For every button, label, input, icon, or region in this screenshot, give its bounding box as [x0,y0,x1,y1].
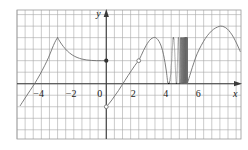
x-axis-label: x [233,89,237,99]
open-point-2-1 [137,59,141,63]
graph-figure: −4−20246xy [0,0,248,150]
x-tick-label: 2 [131,89,136,99]
x-tick-label: −4 [33,89,44,99]
x-tick-label: 6 [196,89,201,99]
x-tick-label: 0 [97,89,102,99]
filled-point-0-1 [104,59,108,63]
x-tick-label: −2 [66,89,77,99]
open-point-0-neg1 [104,105,108,109]
x-tick-label: 4 [163,89,168,99]
y-axis-label: y [96,9,100,19]
graph-canvas [0,0,248,150]
figure-background [0,0,248,150]
